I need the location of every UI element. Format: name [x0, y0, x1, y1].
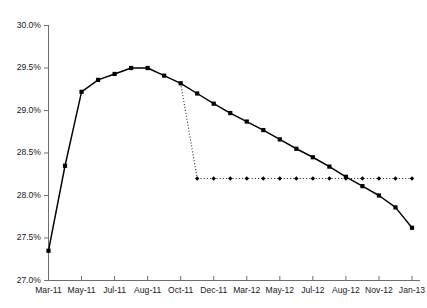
data-point-marker: [96, 78, 100, 82]
y-tick-label: 29.5%: [17, 62, 42, 72]
reference-point-marker: [360, 176, 364, 180]
reference-point-marker: [311, 176, 315, 180]
x-tick-label: Dec-11: [200, 285, 227, 295]
data-point-marker: [245, 119, 249, 123]
line-chart: 30.0%29.5%29.0%28.5%28.0%27.5%27.0% Mar-…: [0, 0, 427, 308]
x-axis: Mar-11May-11Jul-11Aug-11Oct-11Dec-11Mar-…: [35, 276, 425, 295]
data-point-marker: [393, 205, 397, 209]
data-point-marker: [261, 128, 265, 132]
data-point-marker: [129, 66, 133, 70]
y-tick-label: 28.5%: [17, 147, 42, 157]
data-point-marker: [179, 81, 183, 85]
reference-point-marker: [410, 176, 414, 180]
reference-point-marker: [228, 176, 232, 180]
data-point-marker: [327, 165, 331, 169]
reference-point-marker: [327, 176, 331, 180]
x-tick-labels: Mar-11May-11Jul-11Aug-11Oct-11Dec-11Mar-…: [35, 285, 425, 295]
y-axis: 30.0%29.5%29.0%28.5%28.0%27.5%27.0%: [17, 20, 49, 285]
reference-point-marker: [294, 176, 298, 180]
reference-flat-markers: [195, 176, 414, 180]
x-tick-label: Nov-12: [365, 285, 393, 295]
x-tick-label: Mar-12: [233, 285, 260, 295]
data-point-marker: [278, 137, 282, 141]
x-tick-label: May-11: [68, 285, 96, 295]
reference-point-marker: [393, 176, 397, 180]
y-tick-label: 27.5%: [17, 232, 42, 242]
reference-point-marker: [212, 176, 216, 180]
data-point-marker: [294, 147, 298, 151]
y-tick-labels: 30.0%29.5%29.0%28.5%28.0%27.5%27.0%: [17, 20, 42, 285]
x-tick-marks: [49, 276, 413, 281]
data-point-marker: [311, 155, 315, 159]
data-point-marker: [344, 175, 348, 179]
reference-point-marker: [278, 176, 282, 180]
reference-point-marker: [377, 176, 381, 180]
data-point-marker: [377, 193, 381, 197]
y-tick-marks: [44, 26, 49, 281]
data-point-marker: [79, 90, 83, 94]
actual-series-line: [49, 68, 413, 251]
chart-container: 30.0%29.5%29.0%28.5%28.0%27.5%27.0% Mar-…: [0, 0, 427, 308]
x-tick-label: Mar-11: [35, 285, 62, 295]
reference-point-marker: [261, 176, 265, 180]
y-tick-label: 28.0%: [17, 190, 42, 200]
data-point-marker: [63, 164, 67, 168]
x-tick-label: Aug-11: [134, 285, 161, 295]
y-tick-label: 29.0%: [17, 105, 42, 115]
plot-area: [46, 66, 414, 253]
data-point-marker: [162, 74, 166, 78]
drop-connector-line: [181, 83, 198, 178]
data-point-marker: [228, 111, 232, 115]
x-tick-label: Oct-11: [168, 285, 193, 295]
x-tick-label: Aug-12: [332, 285, 360, 295]
data-point-marker: [212, 102, 216, 106]
data-point-marker: [112, 72, 116, 76]
x-tick-label: Jul-12: [301, 285, 325, 295]
data-point-marker: [410, 226, 414, 230]
y-tick-label: 30.0%: [17, 20, 42, 30]
data-point-marker: [146, 66, 150, 70]
x-tick-label: May-12: [265, 285, 294, 295]
x-tick-label: Jul-11: [103, 285, 126, 295]
reference-point-marker: [245, 176, 249, 180]
data-point-marker: [46, 249, 50, 253]
actual-series-markers: [46, 66, 414, 253]
x-tick-label: Jan-13: [399, 285, 425, 295]
data-point-marker: [195, 91, 199, 95]
y-tick-label: 27.0%: [17, 275, 42, 285]
reference-point-marker: [195, 176, 199, 180]
data-point-marker: [360, 184, 364, 188]
